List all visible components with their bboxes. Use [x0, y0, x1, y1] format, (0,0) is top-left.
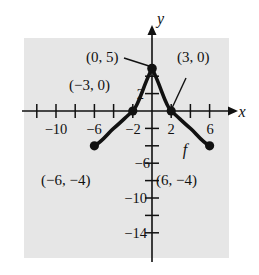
label-point-neg6-neg4: (−6, −4) [41, 172, 90, 189]
point-3-0 [167, 106, 176, 115]
label-point-6-neg4: (6, −4) [156, 172, 197, 189]
x-tick-label-neg6: −6 [86, 121, 101, 137]
point-6-neg4 [205, 141, 214, 150]
point-neg3-0 [128, 106, 137, 115]
y-tick-label-neg6: −6 [135, 155, 150, 171]
y-tick-label-neg10: −10 [124, 190, 147, 206]
x-tick-label-neg2: −2 [125, 121, 140, 137]
x-tick-label-2: 2 [167, 121, 174, 137]
x-tick-label-6: 6 [206, 121, 213, 137]
y-axis-arrow-icon [148, 25, 157, 35]
point-neg6-neg4 [90, 141, 99, 150]
label-point-3-0: (3, 0) [177, 49, 210, 66]
graph-figure: y x f (0, 5) (3, 0) (−3, 0) (−6, −4) (6,… [0, 0, 259, 275]
label-point-neg3-0: (−3, 0) [69, 77, 110, 94]
point-0-5 [147, 64, 157, 74]
y-axis-label: y [155, 10, 165, 28]
x-axis-arrow-icon [228, 107, 238, 116]
y-tick-label-2: 2 [137, 86, 144, 102]
x-tick-label-neg10: −10 [45, 121, 68, 137]
label-point-0-5: (0, 5) [86, 49, 119, 66]
x-axis-label: x [237, 103, 245, 120]
y-tick-label-neg14: −14 [124, 225, 147, 241]
